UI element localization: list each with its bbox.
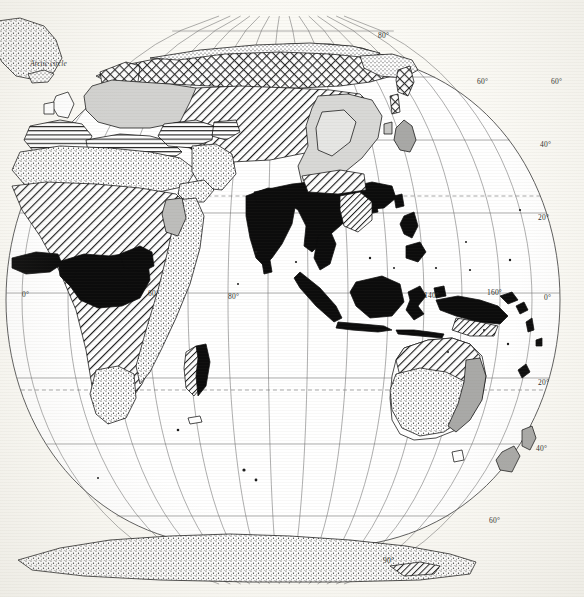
region-korea bbox=[384, 122, 392, 134]
region-srilanka-black bbox=[262, 260, 272, 274]
region-new-zealand-north bbox=[522, 426, 536, 450]
latitude-label: 20° bbox=[538, 213, 549, 222]
map-figure: 0°60°80°140°160°80°60°60°40°20°0°20°40°6… bbox=[0, 0, 584, 597]
region-ireland bbox=[44, 102, 54, 114]
longitude-label: 0° bbox=[22, 290, 29, 299]
longitude-label: 60° bbox=[148, 289, 159, 298]
longitude-label: 160° bbox=[487, 288, 502, 297]
region-british-isles bbox=[52, 92, 74, 118]
world-map-svg bbox=[0, 0, 584, 597]
latitude-label: 60° bbox=[551, 77, 562, 86]
latitude-label: 20° bbox=[538, 378, 549, 387]
latitude-label: 80° bbox=[378, 31, 389, 40]
region-tasmania bbox=[452, 450, 464, 462]
annotation-arctic-circle: Arctic circle bbox=[30, 59, 67, 68]
latitude-label: 0° bbox=[544, 293, 551, 302]
longitude-label: 80° bbox=[228, 292, 239, 301]
latitude-label: 40° bbox=[536, 444, 547, 453]
region-sakhalin bbox=[390, 94, 400, 114]
region-greenland bbox=[0, 18, 62, 80]
region-taiwan bbox=[394, 194, 404, 208]
latitude-label: 60° bbox=[489, 516, 500, 525]
longitude-label: 140° bbox=[424, 291, 439, 300]
latitude-label: 90° bbox=[383, 556, 394, 565]
latitude-label: 60° bbox=[477, 77, 488, 86]
latitude-label: 40° bbox=[540, 140, 551, 149]
